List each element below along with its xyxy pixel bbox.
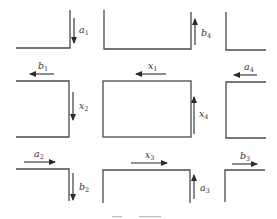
label-b3: b3 [240, 150, 250, 163]
block-center [103, 81, 191, 137]
label-x1: x1 [148, 60, 158, 73]
label-b2: b2 [79, 181, 89, 194]
flow-arrows [24, 18, 257, 200]
caption-cropped [112, 216, 161, 217]
label-a4: a4 [244, 61, 254, 74]
block-top-left [16, 10, 70, 48]
label-x4: x4 [199, 108, 209, 121]
label-x2: x2 [79, 100, 89, 113]
label-a2: a2 [34, 148, 44, 161]
traffic-network-diagram: a1 b1 x2 x1 b4 a4 x4 a2 b2 x3 a3 b3 [0, 0, 277, 219]
block-middle-left [16, 81, 69, 137]
block-bottom-left [16, 169, 69, 201]
block-top-right [226, 12, 266, 50]
street-blocks [16, 10, 266, 203]
label-x3: x3 [145, 149, 155, 162]
label-b4: b4 [201, 27, 211, 40]
block-top-middle [104, 10, 191, 49]
label-a3: a3 [200, 182, 210, 195]
block-bottom-middle [103, 170, 190, 203]
label-a1: a1 [79, 24, 89, 37]
label-b1: b1 [38, 60, 48, 73]
block-middle-right [226, 82, 266, 138]
block-bottom-right [225, 170, 265, 202]
